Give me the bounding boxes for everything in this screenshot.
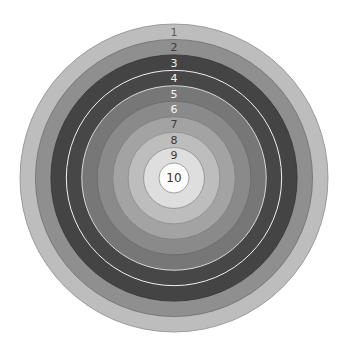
ring-label-10: 10 bbox=[166, 171, 181, 185]
target-diagram: 12345678910 bbox=[0, 0, 346, 354]
ring-label-2: 2 bbox=[171, 41, 178, 54]
ring-label-1: 1 bbox=[171, 26, 178, 39]
ring-label-5: 5 bbox=[171, 88, 178, 101]
ring-label-9: 9 bbox=[171, 149, 178, 162]
ring-label-3: 3 bbox=[171, 57, 178, 70]
ring-label-4: 4 bbox=[171, 72, 178, 85]
ring-label-7: 7 bbox=[171, 118, 178, 131]
ring-label-6: 6 bbox=[171, 103, 178, 116]
ring-label-8: 8 bbox=[171, 134, 178, 147]
